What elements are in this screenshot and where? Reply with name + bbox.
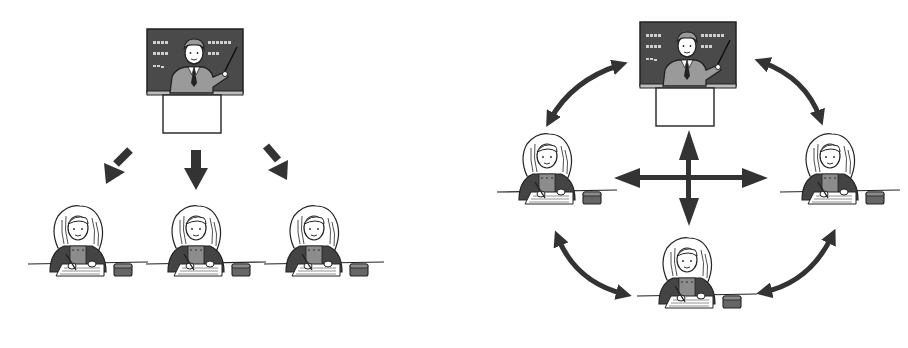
- arrow-down-right-icon: [266, 146, 288, 180]
- double-arrow-bottom-left-icon: [558, 238, 624, 294]
- student-3: [264, 200, 389, 295]
- student-bottom: [637, 232, 762, 327]
- double-arrow-top-right-icon: [762, 62, 820, 118]
- double-arrow-bottom-right-icon: [764, 236, 832, 292]
- one-way-instruction-panel: [0, 0, 420, 348]
- interactive-instruction-panel: [480, 0, 908, 348]
- four-way-arrow-icon: [614, 130, 768, 226]
- student-2: [146, 200, 271, 295]
- arrow-down-icon: [184, 150, 208, 190]
- student-right: [780, 128, 905, 223]
- arrow-down-left-icon: [104, 150, 130, 184]
- one-way-arrows: [0, 0, 420, 348]
- student-left: [497, 128, 622, 223]
- student-1: [28, 200, 153, 295]
- illustration: [0, 0, 908, 348]
- double-arrow-top-left-icon: [550, 65, 620, 120]
